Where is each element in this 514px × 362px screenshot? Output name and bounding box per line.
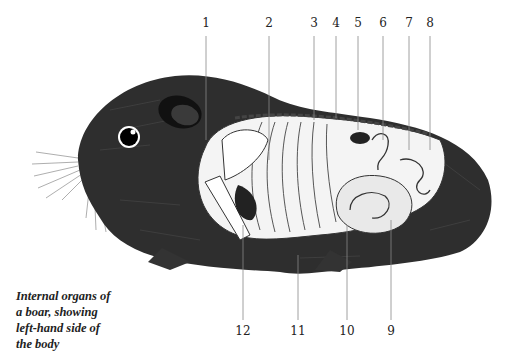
figure-caption: Internal organs of a boar, showing left-… bbox=[16, 288, 146, 352]
label-6: 6 bbox=[379, 16, 387, 30]
label-8: 8 bbox=[426, 16, 434, 30]
caecum bbox=[336, 175, 412, 233]
label-9: 9 bbox=[387, 324, 395, 338]
anatomy-diagram: 1 2 3 4 5 6 7 8 12 11 10 9 Internal orga… bbox=[0, 0, 514, 362]
kidney bbox=[350, 132, 370, 144]
label-2: 2 bbox=[265, 16, 273, 30]
label-4: 4 bbox=[332, 16, 340, 30]
label-1: 1 bbox=[202, 16, 210, 30]
label-12: 12 bbox=[235, 324, 250, 338]
label-10: 10 bbox=[339, 324, 354, 338]
label-3: 3 bbox=[310, 16, 318, 30]
label-5: 5 bbox=[354, 16, 362, 30]
label-11: 11 bbox=[290, 324, 305, 338]
label-7: 7 bbox=[405, 16, 413, 30]
